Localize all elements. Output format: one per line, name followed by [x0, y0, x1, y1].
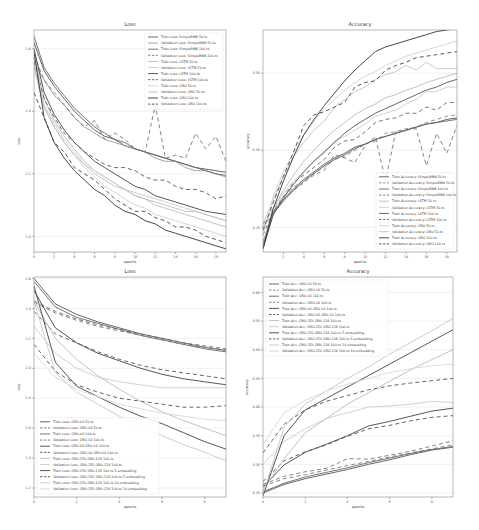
- x-tick-label: 4: [73, 255, 75, 259]
- y-tick-label: 0.55: [252, 319, 260, 323]
- y-tick-label: 2.4: [26, 307, 31, 311]
- legend-label: Train Accuracy: LSTM 50-ts: [391, 199, 436, 203]
- series-line: [34, 281, 226, 351]
- legend-label: Validation Loss: GRU-64 GRU-64 100-ts: [53, 451, 118, 455]
- x-tick-label: 8: [204, 500, 206, 504]
- legend-label: Train Accuracy: GRU 100-ts: [391, 236, 437, 240]
- x-tick-label: 0: [33, 500, 35, 504]
- x-tick-label: 2: [76, 500, 78, 504]
- legend-label: Train Loss: LSTM 100-ts: [160, 72, 200, 76]
- x-tick-label: 4: [303, 255, 305, 259]
- y-tick-label: 1.2: [26, 486, 31, 490]
- x-axis-label: epochs: [354, 260, 367, 264]
- y-tick-label: 0.45: [252, 377, 260, 381]
- legend-label: Train Loss: GRU-256 GRU-128 100-ts 10-em…: [52, 481, 139, 485]
- x-tick-label: 8: [431, 500, 433, 504]
- chart-title: Accuracy: [349, 21, 372, 28]
- y-axis-label: accuracy: [245, 379, 249, 395]
- y-tick-label: 2.2: [26, 337, 31, 341]
- chart-title: Loss: [125, 21, 136, 27]
- x-tick-label: 2: [304, 500, 306, 504]
- y-tick-label: 2.6: [26, 47, 31, 51]
- legend-label: Validation Acc: GRU-256 GRU-128 100-ts 1…: [282, 349, 374, 353]
- legend-label: Train Loss: GRU 100-ts: [160, 96, 198, 100]
- y-tick-label: 0.35: [252, 434, 260, 438]
- legend: Train Loss: SimpleRNN 50-tsValidation Lo…: [145, 33, 223, 109]
- x-tick-label: 6: [161, 500, 163, 504]
- legend-label: Validation Accuracy: SimpleRNN 50-ts: [392, 181, 455, 185]
- y-tick-label: 0.25: [252, 491, 260, 495]
- legend-label: Validation Loss: GRU-256 GRU-128 100-ts …: [53, 487, 147, 491]
- legend-label: Validation Loss: GRU-64 50-ts: [53, 426, 102, 430]
- x-tick-label: 10: [133, 255, 137, 259]
- legend-label: Train Acc: GRU-64 GRU-64 100-ts: [281, 307, 337, 311]
- legend-label: Train Loss: GRU-64 50-ts: [52, 420, 94, 424]
- series-line: [263, 441, 453, 485]
- x-axis-label: epochs: [352, 505, 365, 509]
- legend-label: Train Acc: GRU-256 GRU-128 100-ts: [281, 319, 341, 323]
- legend-label: Train Accuracy: SimpleRNN 50-ts: [391, 175, 446, 179]
- legend-label: Train Loss: GRU 50-ts: [160, 84, 196, 88]
- x-tick-label: 4: [118, 500, 120, 504]
- x-tick-label: 2: [282, 255, 284, 259]
- legend-label: Validation Loss: LSTM 50-ts: [161, 66, 206, 70]
- x-tick-label: 0: [262, 500, 264, 504]
- legend-label: Train Acc: GRU-64 100-ts: [281, 294, 323, 298]
- legend: Train Loss: GRU-64 50-tsValidation Loss:…: [37, 418, 159, 494]
- x-tick-label: 12: [153, 255, 157, 259]
- y-tick-label: 2.4: [26, 109, 31, 113]
- y-axis-label: loss: [17, 137, 21, 144]
- y-tick-label: 2.0: [26, 235, 31, 239]
- legend-label: Validation Loss: GRU-256 GRU-128 100-ts …: [53, 475, 145, 479]
- y-tick-label: 0.30: [252, 148, 260, 152]
- plot-area: 0.250.300.3524681012141618Train Accuracy…: [252, 28, 457, 259]
- legend-label: Train Accuracy: SimpleRNN 100-ts: [391, 187, 448, 191]
- series-line: [263, 350, 453, 490]
- legend-label: Train Loss: SimpleRNN 100-ts: [160, 47, 210, 51]
- legend-label: Validation Accuracy: LSTM 50-ts: [392, 206, 445, 210]
- y-tick-label: 0.60: [252, 291, 260, 295]
- legend-label: Validation Loss: LSTM 100-ts: [161, 78, 208, 82]
- chart-title: Accuracy: [347, 268, 370, 275]
- legend-label: Validation Acc: GRU-64 GRU-64 100-ts: [282, 313, 345, 317]
- plot-area: 1.21.41.61.82.02.22.42.602468Train Loss:…: [26, 277, 226, 504]
- y-axis-label: accuracy: [246, 133, 250, 149]
- series-line: [34, 353, 226, 420]
- x-axis-label: epochs: [124, 505, 137, 509]
- plot-area: 0.250.300.350.400.450.500.550.6002468Tra…: [252, 277, 453, 504]
- x-tick-label: 6: [323, 255, 325, 259]
- x-tick-label: 12: [383, 255, 387, 259]
- legend-label: Train Accuracy: GRU 50-ts: [391, 224, 435, 228]
- legend-label: Validation Accuracy: SimpleRNN 100-ts: [392, 193, 457, 197]
- x-tick-label: 8: [344, 255, 346, 259]
- legend-label: Validation Accuracy: GRU 50-ts: [392, 230, 443, 234]
- legend-label: Validation Loss: GRU-256 GRU-128 100-ts: [53, 463, 122, 467]
- x-tick-label: 14: [173, 255, 177, 259]
- x-tick-label: 18: [445, 255, 449, 259]
- y-tick-label: 1.8: [26, 396, 31, 400]
- legend: Train Acc: GRU-64 50-tsValidation Acc: G…: [266, 280, 388, 356]
- plot-area: 2.02.22.42.6024681012141618Train Loss: S…: [26, 30, 226, 259]
- legend-label: Train Loss: GRU-256 GRU-128 100-ts 5-emb…: [52, 469, 136, 473]
- y-tick-label: 1.4: [26, 456, 31, 460]
- x-tick-label: 8: [114, 255, 116, 259]
- x-tick-label: 16: [194, 255, 198, 259]
- legend-label: Train Loss: LSTM 50-ts: [160, 60, 198, 64]
- legend-label: Validation Loss: GRU-64 100-ts: [53, 438, 104, 442]
- y-axis-label: loss: [17, 383, 21, 390]
- legend-label: Validation Loss: GRU 50-ts: [161, 90, 205, 94]
- x-tick-label: 16: [424, 255, 428, 259]
- legend-label: Validation Accuracy: GRU 100-ts: [392, 242, 445, 246]
- y-tick-label: 0.50: [252, 348, 260, 352]
- legend-label: Validation Acc: GRU-256 GRU-128 100-ts 5…: [282, 337, 372, 341]
- legend-label: Validation Loss: GRU 100-ts: [161, 102, 207, 106]
- loss-chart-rnn-comparison: Loss epochs loss 2.02.22.42.602468101214…: [17, 21, 226, 264]
- legend-label: Train Acc: GRU-64 50-ts: [281, 282, 321, 286]
- legend-label: Train Acc: GRU-256 GRU-128 100-ts 5-embe…: [281, 331, 364, 335]
- y-tick-label: 0.40: [252, 405, 260, 409]
- y-tick-label: 2.6: [26, 277, 31, 281]
- series-line: [263, 447, 453, 493]
- series-line: [34, 326, 226, 387]
- x-tick-label: 14: [404, 255, 408, 259]
- x-tick-label: 6: [94, 255, 96, 259]
